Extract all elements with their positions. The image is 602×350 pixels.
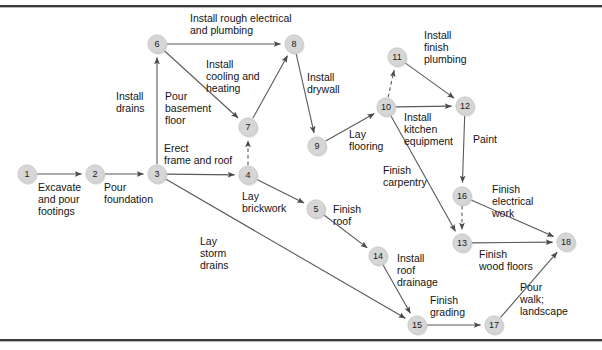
node-11: 11 [388, 48, 408, 68]
node-5: 5 [307, 200, 327, 220]
node-label-7: 7 [245, 122, 250, 132]
node-17: 17 [485, 316, 505, 336]
node-2: 2 [86, 165, 106, 185]
node-label-12: 12 [460, 101, 470, 111]
activity-label: Paint [473, 133, 497, 145]
node-label-15: 15 [412, 320, 422, 330]
edge-10-to-12 [396, 106, 452, 107]
activity-label: Finish grading [430, 294, 465, 318]
node-9: 9 [308, 137, 328, 157]
edge-11-to-12 [405, 63, 454, 98]
activity-label: Finish carpentry [383, 164, 427, 188]
activity-label: Install drains [116, 90, 145, 114]
node-8: 8 [285, 35, 305, 55]
activity-label: Pour walk; landscape [520, 281, 568, 318]
node-4: 4 [239, 166, 259, 186]
node-label-10: 10 [381, 102, 391, 112]
diagram-canvas: 123456789101112131415161718 [0, 0, 602, 350]
activity-label: Lay storm drains [200, 235, 229, 272]
node-label-14: 14 [373, 251, 383, 261]
activity-label: Install cooling and heating [206, 58, 260, 95]
edge-10-to-11 [388, 70, 394, 97]
activity-label: Erect frame and roof [164, 142, 232, 166]
network-diagram: 123456789101112131415161718 Install roug… [0, 0, 602, 350]
node-6: 6 [148, 35, 168, 55]
node-label-17: 17 [489, 320, 499, 330]
node-14: 14 [369, 247, 389, 267]
activity-label: Install rough electrical and plumbing [190, 12, 292, 36]
node-label-18: 18 [561, 237, 571, 247]
activity-label: Pour basement floor [165, 90, 211, 127]
node-label-2: 2 [92, 169, 97, 179]
edge-13-to-18 [472, 242, 553, 243]
node-10: 10 [377, 98, 397, 118]
node-label-9: 9 [314, 141, 319, 151]
node-13: 13 [453, 234, 473, 254]
node-label-4: 4 [245, 170, 250, 180]
activity-label: Install finish plumbing [424, 29, 467, 66]
node-16: 16 [453, 187, 473, 207]
node-7: 7 [239, 118, 259, 138]
activity-label: Lay flooring [349, 128, 383, 152]
activity-label: Finish roof [333, 203, 361, 227]
node-label-3: 3 [154, 169, 159, 179]
node-label-11: 11 [392, 52, 401, 62]
edge-3-to-4 [167, 174, 235, 175]
node-15: 15 [408, 316, 428, 336]
activity-label: Finish electrical work [492, 183, 533, 220]
activity-label: Install drywall [307, 71, 340, 95]
edge-12-to-16 [462, 116, 464, 183]
activity-label: Excavate and pour footings [38, 181, 81, 218]
node-label-16: 16 [457, 191, 467, 201]
activity-label: Install roof drainage [397, 252, 438, 289]
node-label-8: 8 [291, 39, 296, 49]
node-1: 1 [18, 165, 38, 185]
activity-label: Pour foundation [104, 181, 153, 205]
node-label-6: 6 [154, 39, 159, 49]
node-label-5: 5 [313, 204, 318, 214]
node-18: 18 [557, 233, 577, 253]
activity-label: Lay brickwork [242, 190, 286, 214]
node-12: 12 [456, 97, 476, 117]
activity-label: Finish wood floors [479, 248, 533, 272]
activity-label: Install kitchen equipment [404, 111, 453, 148]
node-label-1: 1 [24, 169, 29, 179]
node-label-13: 13 [457, 238, 467, 248]
